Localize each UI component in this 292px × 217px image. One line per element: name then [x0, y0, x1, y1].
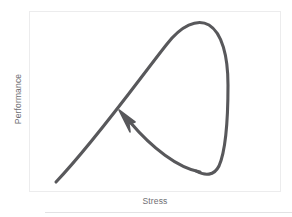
- plot-area-frame: [29, 11, 281, 192]
- x-axis-label: Stress: [29, 196, 281, 206]
- chart-figure: Performance Stress: [0, 0, 292, 217]
- bottom-separator-rule: [45, 212, 292, 213]
- y-axis-label: Performance: [13, 53, 23, 145]
